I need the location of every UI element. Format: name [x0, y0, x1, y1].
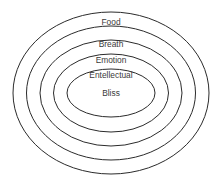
- ring-label-food: Food: [101, 17, 120, 27]
- ring-label-entellectual: Entellectual: [89, 70, 132, 80]
- concentric-ellipse-diagram: Food Breath Emotion Entellectual Bliss: [0, 0, 223, 188]
- ring-label-emotion: Emotion: [96, 55, 127, 65]
- ring-label-bliss: Bliss: [102, 88, 120, 98]
- diagram-canvas: Food Breath Emotion Entellectual Bliss: [0, 0, 223, 188]
- ring-label-breath: Breath: [99, 39, 124, 49]
